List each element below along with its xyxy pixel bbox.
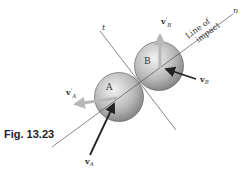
oblique-impact-diagram: t A B n Line of impact v′B vB v′A vA [0,0,250,178]
sphere-a [95,73,144,122]
sphere-a-label: A [105,82,113,92]
line-t-label: t [102,23,106,32]
figure-caption: Fig. 13.23 [4,128,54,140]
sphere-b-label: B [144,56,151,66]
vB-prime-label: v′B [160,16,171,28]
vA-prime-label: v′A [65,87,76,99]
line-n-label: n [233,6,238,15]
vB-label: vB [199,74,209,85]
vA-label: vA [84,156,94,167]
